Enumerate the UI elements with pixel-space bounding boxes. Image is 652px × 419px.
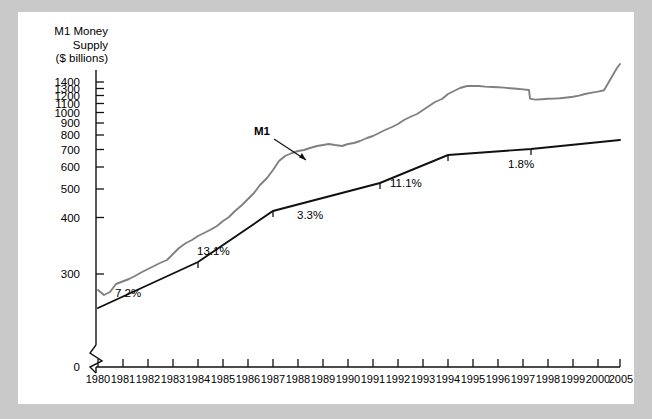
y-tick-label-700: 700: [32, 144, 80, 156]
y-tick-label-800: 800: [32, 129, 80, 141]
annotation-growth-13-1: 13.1%: [197, 245, 230, 257]
chart-panel: M1 MoneySupply($ billions): [18, 12, 634, 404]
y-tick-label-500: 500: [32, 183, 80, 195]
annotation-growth-3-3: 3.3%: [297, 209, 323, 221]
y-tick-label-600: 600: [32, 161, 80, 173]
y-tick-marks: [96, 82, 104, 274]
y-tick-label-300: 300: [32, 268, 80, 280]
series-label-m1: M1: [254, 125, 270, 137]
series-line-trend: [98, 140, 620, 308]
annotation-growth-7-2: 7.2%: [115, 287, 141, 299]
x-tick-marks: [98, 359, 620, 367]
y-tick-label-900: 900: [32, 117, 80, 129]
x-tick-label-2005: 2005: [604, 373, 638, 385]
y-tick-label-0: 0: [32, 361, 80, 373]
chart-canvas: [18, 12, 634, 404]
annotation-growth-11-1: 11.1%: [390, 177, 422, 189]
figure-frame: M1 MoneySupply($ billions): [0, 0, 652, 419]
trend-breakpoint-marks: [198, 149, 531, 268]
annotation-growth-1-8: 1.8%: [508, 158, 534, 170]
y-tick-label-400: 400: [32, 212, 80, 224]
series-line-m1: [98, 64, 620, 295]
m1-leader-arrow: [274, 139, 306, 160]
axis-lines: [90, 70, 620, 373]
